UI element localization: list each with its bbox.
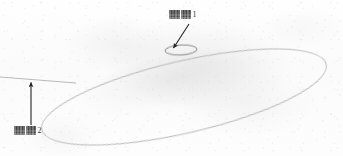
reference-numeral-2: 2: [38, 127, 42, 135]
tangent-line: [0, 77, 76, 83]
reference-numeral-1: 1: [193, 11, 197, 19]
leader-arrow-1: [174, 24, 190, 48]
cjk-glyph-block-2a: [14, 126, 25, 135]
figure-canvas: 1 2: [0, 0, 343, 156]
cjk-glyph-block-1b: [181, 10, 191, 19]
callout-label-1: 1: [169, 10, 197, 19]
cjk-glyph-block-2b: [26, 126, 36, 135]
callout-label-2: 2: [14, 126, 42, 135]
cjk-glyph-block-1a: [169, 10, 180, 19]
diagram-vector-layer: [0, 0, 343, 156]
